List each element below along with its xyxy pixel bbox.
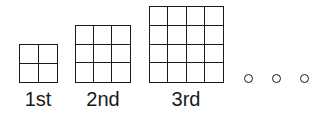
grid-cell	[205, 45, 223, 64]
grid-cell	[150, 63, 168, 82]
continuation-dot-3	[300, 74, 309, 83]
grid-cell	[39, 45, 58, 64]
grid-cell	[20, 45, 39, 64]
grid-cell	[205, 7, 223, 26]
grid-cell	[187, 26, 205, 45]
label-2nd: 2nd	[63, 88, 143, 111]
grid-2nd	[75, 25, 131, 83]
grid-cell	[76, 26, 94, 45]
grid-cell	[150, 45, 168, 64]
grid-cell	[168, 63, 186, 82]
grid-cell	[112, 26, 130, 45]
grid-cell	[112, 63, 130, 82]
grid-cell	[94, 26, 112, 45]
grid-cell	[112, 45, 130, 64]
grid-cell	[205, 63, 223, 82]
grid-1st	[19, 44, 58, 83]
grid-cell	[168, 7, 186, 26]
continuation-dot-1	[244, 74, 253, 83]
grid-cell	[150, 26, 168, 45]
grid-cell	[150, 7, 168, 26]
grid-cell	[94, 45, 112, 64]
grid-cell	[187, 45, 205, 64]
continuation-dot-2	[272, 74, 281, 83]
grid-cell	[168, 26, 186, 45]
grid-cell	[187, 7, 205, 26]
grid-cell	[94, 63, 112, 82]
grid-3rd	[149, 6, 224, 83]
grid-cell	[39, 64, 58, 83]
grid-cell	[168, 45, 186, 64]
label-3rd: 3rd	[146, 88, 226, 111]
grid-cell	[76, 45, 94, 64]
grid-cell	[20, 64, 39, 83]
grid-cell	[205, 26, 223, 45]
grid-cell	[76, 63, 94, 82]
grid-cell	[187, 63, 205, 82]
